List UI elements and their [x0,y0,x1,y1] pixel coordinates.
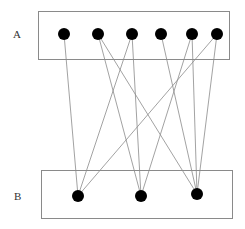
edge-a3-b1 [78,34,132,196]
nodes [58,28,223,202]
set-b-label: B [14,190,21,202]
node-a1 [58,28,70,40]
node-a3 [126,28,138,40]
node-a2 [92,28,104,40]
node-b1 [72,190,84,202]
edges [64,34,217,196]
node-a5 [186,28,198,40]
bipartite-graph [0,0,245,229]
node-b3 [191,188,203,200]
edge-a1-b1 [64,34,78,196]
edge-a3-b2 [132,34,141,196]
set-a-label: A [13,28,21,40]
node-a6 [211,28,223,40]
set-boxes [39,12,233,219]
edge-a2-b2 [98,34,141,196]
node-b2 [135,190,147,202]
node-a4 [155,28,167,40]
